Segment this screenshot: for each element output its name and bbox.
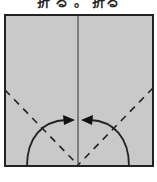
paper-square [5,15,153,166]
fold-diagram [0,0,157,182]
